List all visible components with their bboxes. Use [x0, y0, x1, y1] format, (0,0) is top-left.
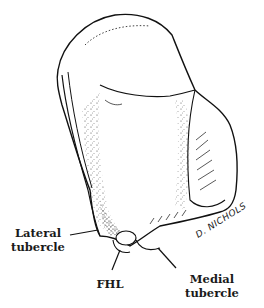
bone-illustration [0, 0, 264, 308]
lateral-tubercle-leader [70, 230, 98, 235]
fhl-leader [112, 250, 120, 270]
fhl-label: FHL [90, 277, 130, 291]
medial-tubercle-leader [158, 248, 176, 268]
medial-tubercle-label: Medial tubercle [176, 272, 248, 300]
fhl-groove [116, 231, 136, 245]
lateral-tubercle-label: Lateral tubercle [6, 226, 70, 254]
